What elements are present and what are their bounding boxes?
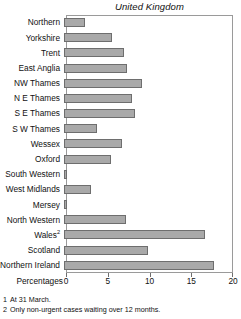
bar-track xyxy=(63,152,230,167)
category-label: Yorkshire xyxy=(0,34,63,42)
bar-track xyxy=(63,30,230,45)
chart-title: United Kingdom xyxy=(66,1,233,12)
bar xyxy=(64,79,142,88)
footnote: 1At 31 March. xyxy=(3,295,239,305)
bar xyxy=(64,246,148,255)
category-label: Oxford xyxy=(0,155,63,163)
category-label-superscript: 2 xyxy=(57,229,60,235)
bar-track xyxy=(63,197,230,212)
category-label: West Midlands xyxy=(0,185,63,193)
category-label: N E Thames xyxy=(0,94,63,102)
bar-row: Scotland xyxy=(0,243,234,258)
bar-row: S E Thames xyxy=(0,106,234,121)
bar xyxy=(64,155,111,164)
bar-track xyxy=(63,227,230,242)
category-label: Mersey xyxy=(0,201,63,209)
footnote-number: 2 xyxy=(3,305,10,315)
bar-track xyxy=(63,136,230,151)
category-label: Northern Ireland xyxy=(0,261,63,269)
category-label: North Western xyxy=(0,216,63,224)
bar-rows: NorthernYorkshireTrentEast AngliaNW Tham… xyxy=(0,15,234,273)
bar-track xyxy=(63,91,230,106)
x-tick-label: 20 xyxy=(228,277,237,285)
bar-track xyxy=(63,121,230,136)
bar xyxy=(64,170,67,179)
bar-row: S W Thames xyxy=(0,121,234,136)
category-label: Trent xyxy=(0,49,63,57)
x-tick-label: 10 xyxy=(145,277,154,285)
bar-row: Oxford xyxy=(0,152,234,167)
bar-track xyxy=(63,76,230,91)
category-label: Wessex xyxy=(0,140,63,148)
x-tick-label: 0 xyxy=(64,277,69,285)
x-tick-label: 5 xyxy=(105,277,110,285)
bar-row: South Western xyxy=(0,167,234,182)
bar-row: Northern Ireland xyxy=(0,258,234,273)
bar xyxy=(64,139,122,148)
bar xyxy=(64,200,67,209)
footnote-text: At 31 March. xyxy=(10,295,51,304)
bar-track xyxy=(63,106,230,121)
category-label: Wales2 xyxy=(0,231,63,239)
bar-track xyxy=(63,61,230,76)
bar xyxy=(64,64,127,73)
category-label: Scotland xyxy=(0,246,63,254)
footnote: 2Only non-urgent cases waiting over 12 m… xyxy=(3,305,239,315)
bar xyxy=(64,230,205,239)
bar xyxy=(64,94,132,103)
bar-row: East Anglia xyxy=(0,61,234,76)
bar xyxy=(64,109,135,118)
category-label: Northern xyxy=(0,18,63,26)
footnote-number: 1 xyxy=(3,295,10,305)
category-label: East Anglia xyxy=(0,64,63,72)
bar xyxy=(64,124,97,133)
bar xyxy=(64,185,91,194)
bar xyxy=(64,48,124,57)
bar xyxy=(64,261,214,270)
x-tick-label: 15 xyxy=(187,277,196,285)
bar-track xyxy=(63,212,230,227)
bar-row: Trent xyxy=(0,45,234,60)
bar-row: Mersey xyxy=(0,197,234,212)
bar-row: Wessex xyxy=(0,136,234,151)
bar-row: Wales2 xyxy=(0,227,234,242)
bar xyxy=(64,215,126,224)
category-label: S W Thames xyxy=(0,125,63,133)
bar-track xyxy=(63,258,230,273)
bar-track xyxy=(63,182,230,197)
bar-row: Yorkshire xyxy=(0,30,234,45)
x-axis-label: Percentages xyxy=(3,277,63,285)
chart-figure: United Kingdom NorthernYorkshireTrentEas… xyxy=(0,0,241,319)
bar-track xyxy=(63,45,230,60)
category-label: South Western xyxy=(0,170,63,178)
bar-row: Northern xyxy=(0,15,234,30)
bar-track xyxy=(63,243,230,258)
bar xyxy=(64,33,112,42)
bar-track xyxy=(63,15,230,30)
bar-row: NW Thames xyxy=(0,76,234,91)
bar xyxy=(64,18,85,27)
bar-track xyxy=(63,167,230,182)
category-label: NW Thames xyxy=(0,79,63,87)
bar-row: North Western xyxy=(0,212,234,227)
bar-row: West Midlands xyxy=(0,182,234,197)
footnote-text: Only non-urgent cases waiting over 12 mo… xyxy=(10,305,160,314)
category-label: S E Thames xyxy=(0,109,63,117)
bar-row: N E Thames xyxy=(0,91,234,106)
footnotes: 1At 31 March.2Only non-urgent cases wait… xyxy=(3,295,239,314)
